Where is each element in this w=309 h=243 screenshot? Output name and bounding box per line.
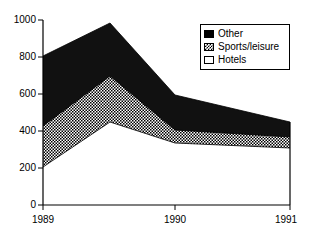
x-axis-label-1990: 1990 — [155, 215, 195, 225]
x-axis-ticks — [43, 205, 290, 210]
y-axis-ticks — [38, 20, 43, 205]
legend-item-sports-leisure: Sports/leisure — [204, 40, 286, 53]
y-axis-label-0: 0 — [6, 200, 36, 210]
black-swatch-icon — [204, 30, 214, 38]
y-axis-label-800: 800 — [6, 52, 36, 62]
y-axis-label-600: 600 — [6, 89, 36, 99]
y-axis-label-200: 200 — [6, 163, 36, 173]
y-axis-label-400: 400 — [6, 126, 36, 136]
legend: Other Sports/leisure Hotels — [200, 24, 290, 70]
stacked-area-chart: 1000 800 600 400 200 0 1989 1990 1991 Ot… — [0, 0, 309, 243]
legend-label-sports-leisure: Sports/leisure — [218, 41, 279, 52]
checkered-swatch-icon — [204, 43, 214, 51]
y-axis-label-1000: 1000 — [6, 15, 36, 25]
x-axis-label-1991: 1991 — [266, 215, 306, 225]
x-axis-label-1989: 1989 — [23, 215, 63, 225]
white-swatch-icon — [204, 56, 214, 64]
legend-label-other: Other — [218, 28, 243, 39]
legend-item-hotels: Hotels — [204, 53, 286, 66]
legend-item-other: Other — [204, 27, 286, 40]
legend-label-hotels: Hotels — [218, 54, 246, 65]
